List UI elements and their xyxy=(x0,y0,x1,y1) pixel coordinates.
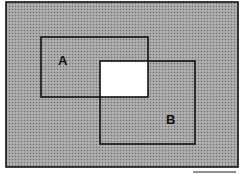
set-b-label: B xyxy=(166,112,175,127)
set-a-label: A xyxy=(58,53,68,68)
venn-diagram: A B xyxy=(0,0,241,174)
intersection-region xyxy=(100,61,148,97)
